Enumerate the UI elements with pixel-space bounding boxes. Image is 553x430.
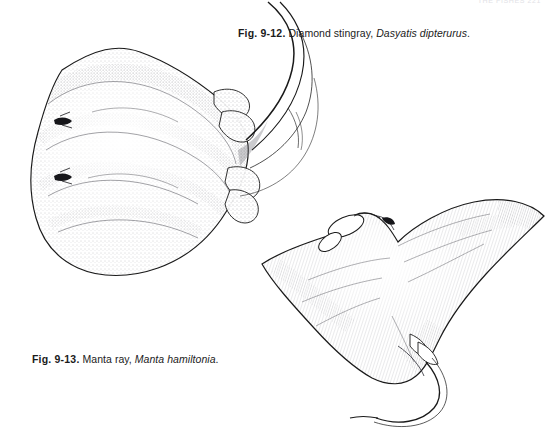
textbook-page: THE FISHES 221: [0, 0, 553, 430]
figure-number-9-13: Fig. 9-13.: [32, 353, 80, 365]
figure-caption-9-13: Fig. 9-13. Manta ray, Manta hamiltonia.: [32, 353, 219, 365]
manta-body-shading: [262, 200, 544, 384]
figure-scientific-name-9-13: Manta hamiltonia: [135, 353, 216, 365]
figure-scientific-name-9-12: Dasyatis dipterurus: [376, 27, 467, 39]
stingray-body-shading: [31, 48, 248, 275]
running-head: THE FISHES 221: [478, 0, 541, 4]
figure-caption-terminal-9-13: .: [216, 353, 219, 365]
figure-number-9-12: Fig. 9-12.: [238, 27, 286, 39]
figure-manta-ray-illustration: [258, 186, 553, 430]
figure-caption-9-12: Fig. 9-12. Diamond stingray, Dasyatis di…: [238, 27, 470, 39]
figure-common-name-9-12: Diamond stingray,: [286, 27, 377, 39]
figure-caption-terminal-9-12: .: [467, 27, 470, 39]
figure-common-name-9-13: Manta ray,: [80, 353, 135, 365]
